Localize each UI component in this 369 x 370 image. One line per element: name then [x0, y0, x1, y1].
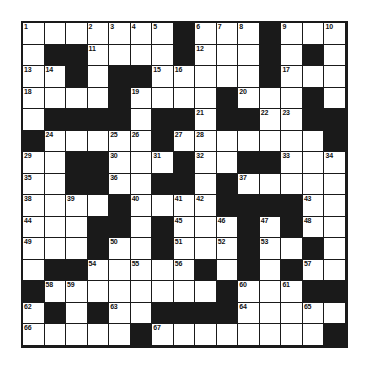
crossword-letter-cell[interactable]: 12 — [195, 45, 217, 67]
crossword-letter-cell[interactable]: 10 — [324, 23, 346, 45]
crossword-letter-cell[interactable] — [217, 66, 239, 88]
crossword-letter-cell[interactable] — [66, 324, 88, 346]
crossword-letter-cell[interactable] — [45, 88, 67, 110]
crossword-letter-cell[interactable] — [131, 109, 153, 131]
crossword-letter-cell[interactable] — [281, 88, 303, 110]
crossword-letter-cell[interactable]: 39 — [66, 195, 88, 217]
crossword-letter-cell[interactable]: 32 — [195, 152, 217, 174]
crossword-letter-cell[interactable]: 53 — [260, 238, 282, 260]
crossword-letter-cell[interactable]: 59 — [66, 281, 88, 303]
crossword-letter-cell[interactable] — [152, 195, 174, 217]
crossword-letter-cell[interactable]: 48 — [303, 217, 325, 239]
crossword-letter-cell[interactable] — [45, 174, 67, 196]
crossword-letter-cell[interactable]: 34 — [324, 152, 346, 174]
crossword-letter-cell[interactable] — [238, 66, 260, 88]
crossword-letter-cell[interactable]: 33 — [281, 152, 303, 174]
crossword-letter-cell[interactable] — [281, 131, 303, 153]
crossword-letter-cell[interactable] — [217, 152, 239, 174]
crossword-letter-cell[interactable]: 55 — [131, 260, 153, 282]
crossword-letter-cell[interactable]: 2 — [88, 23, 110, 45]
crossword-letter-cell[interactable]: 16 — [174, 66, 196, 88]
crossword-letter-cell[interactable]: 51 — [174, 238, 196, 260]
crossword-letter-cell[interactable] — [45, 23, 67, 45]
crossword-letter-cell[interactable] — [174, 281, 196, 303]
crossword-letter-cell[interactable]: 60 — [238, 281, 260, 303]
crossword-letter-cell[interactable]: 35 — [23, 174, 45, 196]
crossword-letter-cell[interactable]: 37 — [238, 174, 260, 196]
crossword-letter-cell[interactable] — [66, 238, 88, 260]
crossword-letter-cell[interactable] — [217, 131, 239, 153]
crossword-letter-cell[interactable]: 54 — [88, 260, 110, 282]
crossword-letter-cell[interactable]: 5 — [152, 23, 174, 45]
crossword-letter-cell[interactable]: 22 — [260, 109, 282, 131]
crossword-letter-cell[interactable] — [45, 195, 67, 217]
crossword-letter-cell[interactable] — [238, 324, 260, 346]
crossword-letter-cell[interactable] — [88, 281, 110, 303]
crossword-letter-cell[interactable] — [131, 45, 153, 67]
crossword-letter-cell[interactable]: 15 — [152, 66, 174, 88]
crossword-letter-cell[interactable] — [131, 281, 153, 303]
crossword-letter-cell[interactable]: 50 — [109, 238, 131, 260]
crossword-letter-cell[interactable] — [238, 131, 260, 153]
crossword-letter-cell[interactable]: 6 — [195, 23, 217, 45]
crossword-letter-cell[interactable]: 9 — [281, 23, 303, 45]
crossword-letter-cell[interactable] — [195, 281, 217, 303]
crossword-letter-cell[interactable] — [260, 88, 282, 110]
crossword-letter-cell[interactable]: 30 — [109, 152, 131, 174]
crossword-letter-cell[interactable]: 58 — [45, 281, 67, 303]
crossword-letter-cell[interactable] — [281, 174, 303, 196]
crossword-letter-cell[interactable] — [131, 238, 153, 260]
crossword-letter-cell[interactable] — [303, 66, 325, 88]
crossword-letter-cell[interactable]: 7 — [217, 23, 239, 45]
crossword-letter-cell[interactable] — [66, 131, 88, 153]
crossword-letter-cell[interactable]: 11 — [88, 45, 110, 67]
crossword-letter-cell[interactable] — [45, 324, 67, 346]
crossword-letter-cell[interactable]: 24 — [45, 131, 67, 153]
crossword-letter-cell[interactable] — [195, 66, 217, 88]
crossword-letter-cell[interactable]: 62 — [23, 303, 45, 325]
crossword-letter-cell[interactable] — [324, 88, 346, 110]
crossword-letter-cell[interactable] — [324, 238, 346, 260]
crossword-letter-cell[interactable]: 8 — [238, 23, 260, 45]
crossword-letter-cell[interactable]: 44 — [23, 217, 45, 239]
crossword-letter-cell[interactable] — [66, 217, 88, 239]
crossword-letter-cell[interactable] — [88, 195, 110, 217]
crossword-letter-cell[interactable] — [324, 195, 346, 217]
crossword-letter-cell[interactable] — [88, 324, 110, 346]
crossword-letter-cell[interactable] — [174, 324, 196, 346]
crossword-letter-cell[interactable]: 4 — [131, 23, 153, 45]
crossword-letter-cell[interactable]: 41 — [174, 195, 196, 217]
crossword-letter-cell[interactable]: 25 — [109, 131, 131, 153]
crossword-letter-cell[interactable] — [324, 217, 346, 239]
crossword-letter-cell[interactable] — [66, 23, 88, 45]
crossword-letter-cell[interactable] — [324, 45, 346, 67]
crossword-letter-cell[interactable]: 46 — [217, 217, 239, 239]
crossword-letter-cell[interactable]: 28 — [195, 131, 217, 153]
crossword-grid[interactable]: 1234567891011121314151617181920212223242… — [21, 21, 348, 348]
crossword-letter-cell[interactable]: 1 — [23, 23, 45, 45]
crossword-letter-cell[interactable] — [195, 88, 217, 110]
crossword-letter-cell[interactable] — [131, 152, 153, 174]
crossword-letter-cell[interactable] — [303, 152, 325, 174]
crossword-letter-cell[interactable]: 45 — [174, 217, 196, 239]
crossword-letter-cell[interactable]: 40 — [131, 195, 153, 217]
crossword-letter-cell[interactable] — [324, 303, 346, 325]
crossword-letter-cell[interactable] — [217, 260, 239, 282]
crossword-letter-cell[interactable] — [66, 88, 88, 110]
crossword-letter-cell[interactable] — [260, 174, 282, 196]
crossword-letter-cell[interactable] — [195, 217, 217, 239]
crossword-letter-cell[interactable] — [260, 131, 282, 153]
crossword-letter-cell[interactable] — [152, 88, 174, 110]
crossword-letter-cell[interactable]: 52 — [217, 238, 239, 260]
crossword-letter-cell[interactable]: 27 — [174, 131, 196, 153]
crossword-letter-cell[interactable] — [88, 131, 110, 153]
crossword-letter-cell[interactable] — [152, 45, 174, 67]
crossword-letter-cell[interactable] — [45, 217, 67, 239]
crossword-letter-cell[interactable] — [281, 238, 303, 260]
crossword-letter-cell[interactable] — [131, 303, 153, 325]
crossword-letter-cell[interactable]: 63 — [109, 303, 131, 325]
crossword-letter-cell[interactable]: 49 — [23, 238, 45, 260]
crossword-letter-cell[interactable] — [324, 260, 346, 282]
crossword-letter-cell[interactable] — [260, 281, 282, 303]
crossword-letter-cell[interactable] — [152, 281, 174, 303]
